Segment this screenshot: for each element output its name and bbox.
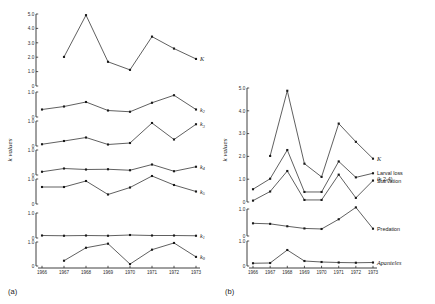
- svg-text:3.0: 3.0: [239, 131, 246, 136]
- svg-text:1970: 1970: [125, 270, 136, 275]
- svg-text:1966: 1966: [37, 270, 48, 275]
- svg-text:1972: 1972: [169, 270, 180, 275]
- svg-text:1.0: 1.0: [28, 148, 35, 153]
- svg-text:k values: k values: [221, 138, 229, 161]
- svg-text:k4: k4: [200, 163, 205, 171]
- svg-text:1.0: 1.0: [239, 239, 246, 244]
- svg-text:k0: k0: [200, 253, 206, 261]
- svg-text:1.0: 1.0: [28, 177, 35, 182]
- svg-text:0: 0: [32, 264, 35, 269]
- svg-text:1.0: 1.0: [28, 119, 35, 124]
- svg-text:k5: k5: [200, 188, 205, 196]
- svg-text:0: 0: [32, 202, 35, 207]
- svg-text:5.0: 5.0: [28, 12, 35, 17]
- svg-text:1969: 1969: [299, 270, 310, 275]
- svg-text:k1: k1: [200, 232, 205, 240]
- svg-text:1.0: 1.0: [28, 240, 35, 245]
- svg-text:1.0: 1.0: [28, 69, 35, 74]
- svg-text:1971: 1971: [334, 270, 345, 275]
- svg-text:Starvation: Starvation: [377, 178, 401, 184]
- svg-text:1971: 1971: [147, 270, 158, 275]
- svg-text:1.0: 1.0: [28, 90, 35, 95]
- svg-text:Predation: Predation: [377, 226, 400, 232]
- svg-text:3.0: 3.0: [28, 41, 35, 46]
- svg-text:(b): (b): [225, 287, 235, 296]
- svg-text:1966: 1966: [248, 270, 259, 275]
- panel-b: 01.02.03.04.05.0KLarval loss(k 2-4)Starv…: [215, 0, 435, 304]
- panel-a-plot: 01.02.03.04.05.0K01.0k201.0k301.0k401.0k…: [0, 0, 215, 304]
- svg-text:1968: 1968: [81, 270, 92, 275]
- svg-text:1973: 1973: [191, 270, 202, 275]
- svg-text:2.0: 2.0: [28, 55, 35, 60]
- svg-text:1973: 1973: [368, 270, 379, 275]
- panel-b-plot: 01.02.03.04.05.0KLarval loss(k 2-4)Starv…: [215, 0, 435, 304]
- svg-text:Apanteles: Apanteles: [376, 259, 402, 266]
- svg-text:1.0: 1.0: [28, 211, 35, 216]
- svg-text:1.0: 1.0: [239, 207, 246, 212]
- svg-text:k2: k2: [200, 106, 205, 114]
- svg-text:1972: 1972: [351, 270, 362, 275]
- svg-text:0: 0: [243, 200, 246, 205]
- key-factor-analysis-figure: 01.02.03.04.05.0K01.0k201.0k301.0k401.0k…: [0, 0, 435, 304]
- svg-text:K: K: [376, 155, 382, 162]
- svg-text:1969: 1969: [103, 270, 114, 275]
- svg-text:K: K: [199, 55, 205, 62]
- svg-text:2.0: 2.0: [239, 154, 246, 159]
- svg-text:1.0: 1.0: [239, 177, 246, 182]
- svg-text:0: 0: [32, 84, 35, 89]
- svg-text:4.0: 4.0: [28, 26, 35, 31]
- panel-a: 01.02.03.04.05.0K01.0k201.0k301.0k401.0k…: [0, 0, 215, 304]
- svg-text:k values: k values: [6, 138, 14, 161]
- svg-text:4.0: 4.0: [239, 109, 246, 114]
- svg-text:1968: 1968: [282, 270, 293, 275]
- svg-text:1967: 1967: [59, 270, 70, 275]
- svg-text:5.0: 5.0: [239, 86, 246, 91]
- svg-text:1970: 1970: [316, 270, 327, 275]
- svg-text:(a): (a): [8, 287, 18, 296]
- svg-text:k3: k3: [200, 120, 205, 128]
- svg-text:1967: 1967: [265, 270, 276, 275]
- svg-text:0: 0: [243, 264, 246, 269]
